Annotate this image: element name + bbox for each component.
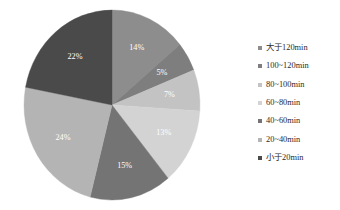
legend-item[interactable]: 80~100min [258,79,340,91]
chart-legend: 大于120min100~120min80~100min60~80min40~60… [258,42,340,164]
legend-item-label: 大于120min [266,42,308,54]
legend-swatch-icon [258,83,262,87]
legend-swatch-icon [258,119,262,123]
legend-item-label: 40~60min [266,115,300,127]
legend-item[interactable]: 60~80min [258,97,340,109]
pie-data-label: 22% [67,52,82,61]
pie-data-label: 14% [129,43,144,52]
legend-swatch-icon [258,46,262,50]
legend-swatch-icon [258,64,262,68]
pie-data-label: 24% [55,133,70,142]
legend-item[interactable]: 小于20min [258,152,340,164]
pie-slice-group [24,10,200,200]
legend-swatch-icon [258,156,262,160]
legend-item-label: 100~120min [266,60,309,72]
legend-item-label: 80~100min [266,79,305,91]
pie-data-label: 5% [157,68,168,77]
legend-swatch-icon [258,138,262,142]
pie-data-label: 15% [117,161,132,170]
legend-swatch-icon [258,101,262,105]
pie-svg: 14%5%7%13%15%24%22% [22,8,202,202]
legend-item-label: 20~40min [266,134,300,146]
legend-item-label: 60~80min [266,97,300,109]
pie-data-label: 7% [164,90,175,99]
legend-item[interactable]: 40~60min [258,115,340,127]
pie-data-label: 13% [156,128,171,137]
legend-item[interactable]: 大于120min [258,42,340,54]
legend-item[interactable]: 100~120min [258,60,340,72]
pie-chart-figure: 14%5%7%13%15%24%22% 大于120min100~120min80… [0,0,340,210]
pie-plot-area: 14%5%7%13%15%24%22% [22,8,202,202]
legend-item-label: 小于20min [266,152,303,164]
legend-item[interactable]: 20~40min [258,134,340,146]
